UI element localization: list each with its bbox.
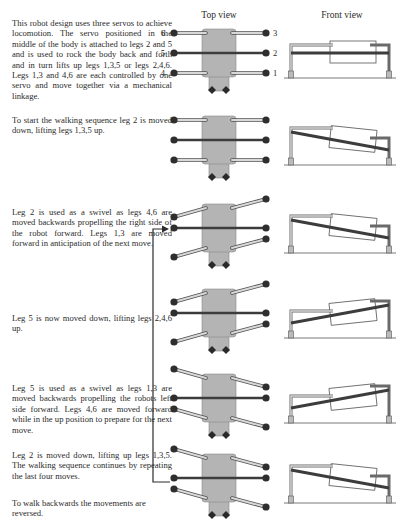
leg-3 (232, 458, 266, 467)
front-view-header: Front view (321, 10, 363, 20)
top-view-6 (170, 445, 269, 519)
top-view-5 (170, 365, 269, 439)
frame-2 (170, 116, 396, 181)
left-foot-pad (289, 331, 294, 338)
leg-4-foot-icon (170, 485, 177, 492)
leg-label-2: 2 (273, 48, 277, 58)
leg-3-foot-icon (262, 280, 269, 287)
leg-5-foot-icon (170, 136, 177, 143)
leg-1-foot-icon (262, 320, 269, 327)
right-foot-pad (387, 246, 392, 253)
leg-1-foot-icon (262, 69, 269, 76)
arrow-head-icon (162, 226, 169, 233)
leg-6 (174, 208, 206, 217)
right-foot-pad (387, 496, 392, 503)
top-view-3 (170, 195, 269, 269)
front-crossbar (291, 390, 389, 408)
leg-1 (232, 239, 266, 248)
leg-6-foot-icon (170, 29, 177, 36)
leg-5-foot-icon (170, 474, 177, 481)
leg-label-1: 1 (273, 68, 277, 78)
leg-6-foot-icon (170, 365, 177, 372)
leg-4 (174, 333, 206, 342)
frame-4 (170, 280, 396, 354)
front-crossbar (291, 305, 389, 323)
left-foot-pad (289, 416, 294, 423)
leg-4 (174, 489, 206, 498)
leg-5-foot-icon (170, 394, 177, 401)
leg-6 (174, 369, 206, 378)
leg-3 (232, 284, 266, 293)
leg-2-foot-icon (262, 224, 269, 231)
leg-3-foot-icon (262, 29, 269, 36)
leg-1-foot-icon (262, 423, 269, 430)
leg-2-foot-icon (262, 136, 269, 143)
leg-5-foot-icon (170, 224, 177, 231)
frame-5 (170, 365, 396, 439)
leg-4 (174, 409, 206, 418)
leg-1 (232, 498, 266, 507)
frame-6 (170, 445, 396, 519)
front-left-leg-fill (291, 45, 333, 74)
leg-3 (232, 378, 266, 387)
top-view-1 (170, 29, 269, 94)
front-crossbar (291, 132, 389, 150)
leg-3-foot-icon (262, 463, 269, 470)
leg-4-foot-icon (170, 69, 177, 76)
front-crossbar (291, 220, 389, 238)
front-left-leg (291, 45, 333, 74)
top-view-header: Top view (201, 10, 237, 20)
leg-1 (232, 324, 266, 333)
front-view-6 (284, 464, 396, 503)
front-crossbar (291, 470, 389, 488)
leg-2-foot-icon (262, 394, 269, 401)
leg-3 (232, 199, 266, 208)
front-view-1 (284, 41, 396, 78)
leg-3-foot-icon (262, 195, 269, 202)
leg-label-3: 3 (273, 28, 277, 38)
leg-label-6: 6 (161, 28, 165, 38)
leg-6-foot-icon (170, 116, 177, 123)
leg-6 (174, 293, 206, 302)
leg-5-foot-icon (170, 49, 177, 56)
leg-3-foot-icon (262, 116, 269, 123)
left-foot-pad (289, 496, 294, 503)
locomotion-diagram: Top view Front view 6 5 4 3 2 1 (0, 0, 414, 526)
right-foot-pad (387, 331, 392, 338)
leg-2-foot-icon (262, 309, 269, 316)
front-view-4 (284, 299, 396, 338)
leg-2-foot-icon (262, 474, 269, 481)
right-foot-pad (387, 158, 392, 165)
left-foot-pad (289, 71, 294, 78)
frame-3 (170, 195, 396, 269)
frame-1 (170, 29, 396, 94)
front-right-leg (370, 45, 389, 74)
leg-3-foot-icon (262, 383, 269, 390)
front-view-5 (284, 384, 396, 423)
leg-4 (174, 248, 206, 257)
leg-1-foot-icon (262, 156, 269, 163)
leg-4-foot-icon (170, 253, 177, 260)
front-view-2 (284, 126, 396, 165)
leg-1 (232, 418, 266, 427)
left-foot-pad (289, 158, 294, 165)
leg-6-foot-icon (170, 213, 177, 220)
leg-1-foot-icon (262, 235, 269, 242)
leg-1-foot-icon (262, 503, 269, 510)
leg-4-foot-icon (170, 338, 177, 345)
leg-2-foot-icon (262, 49, 269, 56)
front-view-3 (284, 214, 396, 253)
leg-4-foot-icon (170, 156, 177, 163)
repeat-arrow (153, 226, 170, 483)
leg-label-4: 4 (161, 68, 166, 78)
leg-5-foot-icon (170, 309, 177, 316)
leg-6-foot-icon (170, 298, 177, 305)
leg-4-foot-icon (170, 405, 177, 412)
right-foot-pad (387, 71, 392, 78)
left-foot-pad (289, 246, 294, 253)
leg-label-5: 5 (161, 48, 165, 58)
leg-6-foot-icon (170, 445, 177, 452)
top-view-2 (170, 116, 269, 181)
leg-6 (174, 449, 206, 458)
right-foot-pad (387, 416, 392, 423)
